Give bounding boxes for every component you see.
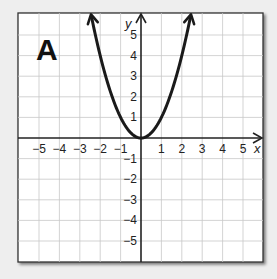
y-tick-label: 1 bbox=[130, 110, 137, 124]
x-tick-label: 2 bbox=[178, 142, 185, 156]
x-axis-label: x bbox=[253, 141, 261, 156]
x-tick-label: 5 bbox=[240, 142, 247, 156]
page: −5−4−3−2−112345 54321−1−2−3−4−5 x y A bbox=[0, 0, 277, 279]
y-tick-label: −5 bbox=[123, 234, 137, 248]
x-tick-label: −3 bbox=[73, 142, 87, 156]
x-tick-label: 4 bbox=[219, 142, 226, 156]
y-tick-label: 3 bbox=[130, 69, 137, 83]
y-tick-label: 2 bbox=[130, 90, 137, 104]
panel-label: A bbox=[36, 33, 58, 66]
y-tick-label: −3 bbox=[123, 193, 137, 207]
y-tick-label: −4 bbox=[123, 213, 137, 227]
x-tick-label: 3 bbox=[199, 142, 206, 156]
coordinate-plane: −5−4−3−2−112345 54321−1−2−3−4−5 x y A bbox=[0, 0, 277, 279]
x-tick-label: −2 bbox=[93, 142, 107, 156]
x-tick-label: 1 bbox=[158, 142, 165, 156]
x-tick-label: −4 bbox=[53, 142, 67, 156]
y-tick-label: 4 bbox=[130, 49, 137, 63]
x-tick-label: −5 bbox=[32, 142, 46, 156]
y-tick-label: −2 bbox=[123, 172, 137, 186]
graph-panel: −5−4−3−2−112345 54321−1−2−3−4−5 x y A bbox=[0, 0, 277, 279]
y-tick-label: −1 bbox=[123, 152, 137, 166]
